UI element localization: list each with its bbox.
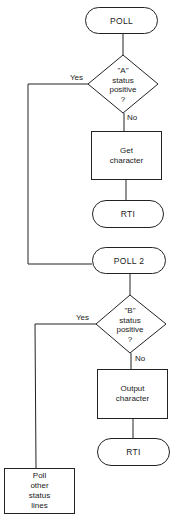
- edge-label-b-yes: Yes: [76, 313, 89, 322]
- process-poll-other-line-1: Poll: [33, 471, 46, 481]
- process-get-character-line-1: Get: [120, 146, 133, 156]
- process-get-character-line-2: character: [110, 156, 143, 166]
- terminal-rti-1: RTI: [92, 200, 164, 228]
- process-poll-other-line-3: status: [29, 491, 50, 501]
- decision-b-line-2: status: [119, 316, 140, 326]
- decision-b-line-3: positive: [116, 325, 143, 335]
- terminal-poll-label: POLL: [110, 16, 133, 26]
- decision-a-line-1: "A": [117, 66, 128, 76]
- process-poll-other-line-2: other: [30, 481, 48, 491]
- process-poll-other-line-4: lines: [31, 501, 47, 511]
- decision-b: "B" status positive ?: [105, 302, 155, 348]
- process-get-character: Get character: [91, 131, 162, 180]
- decision-a-line-2: status: [112, 76, 133, 86]
- decision-a-line-4: ?: [121, 95, 125, 105]
- process-output-character-line-2: character: [116, 394, 149, 404]
- decision-a-line-3: positive: [109, 85, 136, 95]
- terminal-rti-2-label: RTI: [126, 447, 140, 457]
- edge-label-a-no: No: [127, 113, 137, 122]
- edge-label-b-no: No: [135, 354, 145, 363]
- decision-b-line-4: ?: [128, 335, 132, 345]
- terminal-rti-1-label: RTI: [121, 209, 135, 219]
- decision-a: "A" status positive ?: [98, 62, 148, 108]
- process-output-character: Output character: [97, 369, 168, 419]
- edge-label-a-yes: Yes: [70, 73, 83, 82]
- terminal-poll: POLL: [85, 7, 158, 34]
- decision-b-line-1: "B": [124, 306, 135, 316]
- terminal-rti-2: RTI: [97, 438, 170, 466]
- terminal-poll-2: POLL 2: [92, 247, 166, 274]
- process-output-character-line-1: Output: [120, 384, 144, 394]
- terminal-poll-2-label: POLL 2: [114, 256, 144, 266]
- process-poll-other-status-lines: Poll other status lines: [4, 468, 75, 514]
